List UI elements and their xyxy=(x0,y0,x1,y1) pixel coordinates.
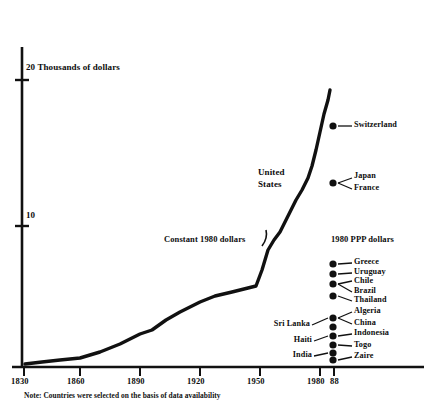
data-point-japan-france xyxy=(329,179,336,186)
data-point-china xyxy=(329,323,336,330)
annotation-pointer-constant-dollars xyxy=(262,230,267,246)
chart-footnote: Note: Countries were selected on the bas… xyxy=(24,391,221,400)
y-axis-label-10: 10 xyxy=(26,211,35,220)
data-point-algeria-srilanka xyxy=(329,314,336,321)
country-label-china: China xyxy=(354,319,376,328)
country-label-zaire: Zaire xyxy=(354,352,373,361)
leader-line-chile xyxy=(338,281,352,284)
leader-line-haiti xyxy=(314,336,328,341)
country-label-algeria: Algeria xyxy=(354,307,381,316)
leader-line-zaire xyxy=(338,357,352,360)
annotation-constant-1980-dollars: Constant 1980 dollars xyxy=(164,235,245,244)
country-label-sri-lanka: Sri Lanka xyxy=(232,320,310,329)
country-label-chile: Chile xyxy=(354,277,373,286)
data-point-chile-brazil xyxy=(329,280,336,287)
x-axis-label-1980: 1980 xyxy=(307,377,325,386)
annotation-series-united-states-line2: States xyxy=(258,180,282,189)
country-label-france: France xyxy=(354,184,379,193)
data-point-zaire xyxy=(329,356,336,363)
leader-line-uruguay xyxy=(338,273,352,274)
data-point-greece xyxy=(329,260,336,267)
x-axis-label-1920: 1920 xyxy=(187,377,205,386)
leader-line-sri-lanka xyxy=(312,318,328,325)
x-axis-label-88: 88 xyxy=(330,377,339,386)
y-axis-label-20-thousands: 20 Thousands of dollars xyxy=(26,63,120,72)
x-axis-label-1950: 1950 xyxy=(247,377,265,386)
country-label-india: India xyxy=(232,351,312,360)
leader-line-france xyxy=(338,183,352,189)
x-axis-label-1830: 1830 xyxy=(11,377,29,386)
data-point-thailand xyxy=(329,292,336,299)
country-label-haiti: Haiti xyxy=(232,336,312,345)
x-axis-label-1890: 1890 xyxy=(127,377,145,386)
leader-line-greece xyxy=(338,263,352,264)
annotation-1980-ppp-dollars: 1980 PPP dollars xyxy=(331,235,394,244)
country-label-switzerland: Switzerland xyxy=(354,121,397,130)
country-label-thailand: Thailand xyxy=(354,296,387,305)
leader-line-india xyxy=(314,353,328,356)
data-point-switzerland xyxy=(329,122,336,129)
country-label-greece: Greece xyxy=(354,258,379,267)
leader-line-indonesia xyxy=(338,334,352,336)
leader-line-togo xyxy=(338,345,352,346)
leader-line-algeria xyxy=(338,312,352,318)
country-label-indonesia: Indonesia xyxy=(354,329,389,338)
data-point-india xyxy=(329,349,336,356)
annotation-series-united-states-line1: United xyxy=(258,168,285,177)
chart-canvas: 20 Thousands of dollars 10 1830 1860 189… xyxy=(0,0,430,408)
leader-line-china xyxy=(338,318,352,324)
country-label-japan: Japan xyxy=(354,172,376,181)
data-point-togo xyxy=(329,341,336,348)
country-label-togo: Togo xyxy=(354,341,371,350)
leader-line-thailand xyxy=(338,296,352,301)
data-point-indonesia-haiti xyxy=(329,332,336,339)
leader-line-japan xyxy=(338,178,352,183)
x-axis-label-1860: 1860 xyxy=(67,377,85,386)
data-point-uruguay xyxy=(329,270,336,277)
leader-line-brazil xyxy=(338,284,352,292)
